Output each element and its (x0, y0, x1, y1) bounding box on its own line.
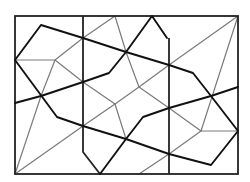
tiling-diagram (0, 0, 250, 182)
thin-path-7 (115, 104, 126, 139)
thin-path-3 (15, 104, 115, 174)
bold-path-top (15, 25, 238, 165)
thin-path-5 (139, 87, 201, 131)
thin-path-6 (139, 131, 201, 174)
thin-path-2 (15, 60, 55, 174)
thin-lines-layer (15, 16, 238, 174)
